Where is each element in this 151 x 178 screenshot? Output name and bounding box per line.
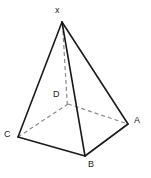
edge-X-B bbox=[62, 22, 85, 156]
vertex-label-b: B bbox=[88, 160, 94, 169]
edge-C-D bbox=[18, 104, 68, 137]
edge-C-B bbox=[18, 137, 85, 156]
pyramid-figure: x C B A D bbox=[0, 0, 151, 178]
vertex-label-d: D bbox=[53, 90, 60, 99]
pyramid-drawing bbox=[0, 0, 151, 178]
vertex-label-c: C bbox=[4, 130, 11, 139]
edge-B-A bbox=[85, 124, 128, 156]
vertex-label-a: A bbox=[134, 116, 140, 125]
edge-X-A bbox=[62, 22, 128, 124]
hidden-edges-group bbox=[18, 24, 128, 137]
edge-X-C bbox=[18, 22, 62, 137]
vertex-label-x: x bbox=[55, 6, 60, 15]
visible-edges-group bbox=[18, 22, 128, 156]
